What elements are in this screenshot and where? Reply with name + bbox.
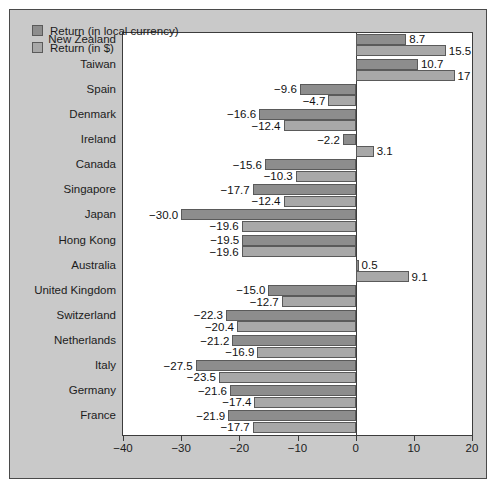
- chart-figure: New ZealandTaiwanSpainDenmarkIrelandCana…: [0, 0, 495, 492]
- x-axis-tick: [123, 436, 124, 441]
- bar-value-label: 3.1: [377, 146, 393, 157]
- chart-panel: New ZealandTaiwanSpainDenmarkIrelandCana…: [9, 9, 487, 479]
- bar-value-label: −23.5: [123, 372, 216, 383]
- bar-usd: [296, 171, 356, 182]
- bar-value-label: −15.6: [123, 160, 262, 171]
- bar-value-label: 9.1: [412, 272, 428, 283]
- bar-value-label: −22.3: [123, 310, 223, 321]
- bar-usd: [356, 45, 446, 56]
- bar-usd: [242, 221, 356, 232]
- x-axis-tick-label: −20: [230, 442, 250, 454]
- bar-value-label: −10.3: [123, 171, 293, 182]
- bar-value-label: −12.4: [123, 121, 281, 132]
- bar-value-label: 0.5: [362, 260, 378, 271]
- bar-value-label: −21.2: [123, 336, 229, 347]
- plot-area: 8.715.510.717−9.6−4.7−16.6−12.4−2.23.1−1…: [122, 32, 473, 436]
- bar-usd: [284, 196, 356, 207]
- bar-usd: [284, 120, 356, 131]
- x-axis-tick-label: 10: [407, 442, 420, 454]
- bar-value-label: −30.0: [123, 210, 178, 221]
- legend-item-local: Return (in local currency): [32, 22, 178, 39]
- x-axis-tick-label: −30: [171, 442, 191, 454]
- bar-value-label: −19.6: [123, 247, 239, 258]
- bar-usd: [242, 246, 356, 257]
- bar-value-label: −16.9: [123, 347, 254, 358]
- bar-local: [242, 235, 355, 246]
- legend-swatch-icon-usd: [32, 42, 43, 53]
- bar-usd: [257, 347, 355, 358]
- bar-usd: [356, 271, 409, 282]
- bar-local: [253, 184, 356, 195]
- y-axis-label: Italy: [95, 359, 116, 371]
- bar-usd: [356, 70, 455, 81]
- y-axis-label: Netherlands: [54, 334, 116, 346]
- y-axis-label: Hong Kong: [58, 234, 116, 246]
- y-axis-label: Canada: [76, 158, 116, 170]
- bar-value-label: −9.6: [123, 84, 297, 95]
- x-axis-tick: [414, 436, 415, 441]
- y-axis-label: Ireland: [81, 133, 116, 145]
- legend-item-usd: Return (in $): [32, 39, 178, 56]
- y-axis-label: Japan: [85, 208, 116, 220]
- x-axis-tick-label: 0: [352, 442, 358, 454]
- y-axis-label: Denmark: [69, 108, 116, 120]
- bar-local: [226, 310, 356, 321]
- y-axis-label: United Kingdom: [34, 284, 116, 296]
- bar-local: [230, 385, 356, 396]
- bar-value-label: −15.0: [123, 285, 265, 296]
- legend-label-usd: Return (in $): [50, 42, 114, 54]
- bar-value-label: −17.7: [123, 185, 250, 196]
- y-axis-label: France: [80, 409, 116, 421]
- bar-usd: [328, 95, 355, 106]
- x-axis-tick: [356, 436, 357, 441]
- bar-value-label: −2.2: [123, 135, 340, 146]
- y-axis-label: Taiwan: [80, 58, 116, 70]
- legend-label-local: Return (in local currency): [50, 25, 178, 37]
- bar-value-label: 17: [458, 71, 471, 82]
- y-axis-label: Australia: [71, 259, 116, 271]
- zero-axis-line: [356, 33, 357, 435]
- bar-value-label: −12.4: [123, 196, 281, 207]
- bar-value-label: 8.7: [409, 34, 425, 45]
- x-axis-tick: [298, 436, 299, 441]
- bar-usd: [254, 397, 355, 408]
- legend-swatch-icon-local: [32, 25, 43, 36]
- bar-local: [181, 209, 356, 220]
- bar-local: [356, 34, 407, 45]
- bar-local: [268, 285, 355, 296]
- x-axis-tick: [239, 436, 240, 441]
- x-axis-tick: [472, 436, 473, 441]
- bar-local: [259, 109, 356, 120]
- bar-local: [300, 84, 356, 95]
- y-axis-label: Singapore: [64, 183, 116, 195]
- bar-local: [232, 335, 355, 346]
- y-axis-label: Germany: [69, 384, 116, 396]
- chart-legend: Return (in local currency) Return (in $): [28, 20, 182, 58]
- bar-local: [228, 410, 355, 421]
- x-axis: −40−30−20−1001020: [122, 436, 473, 466]
- x-axis-tick-label: −40: [113, 442, 133, 454]
- bar-value-label: −17.4: [123, 397, 251, 408]
- bar-local: [265, 159, 356, 170]
- bar-value-label: 15.5: [449, 46, 471, 57]
- bar-value-label: −21.6: [123, 386, 227, 397]
- bar-value-label: −19.5: [123, 235, 239, 246]
- bar-usd: [253, 422, 356, 433]
- y-axis-label: Spain: [87, 83, 116, 95]
- bar-value-label: −4.7: [123, 96, 325, 107]
- bar-usd: [219, 372, 356, 383]
- bar-value-label: −12.7: [123, 297, 279, 308]
- x-axis-tick-label: 20: [466, 442, 479, 454]
- bar-local: [356, 59, 418, 70]
- bar-value-label: −27.5: [123, 361, 193, 372]
- bar-value-label: 10.7: [421, 59, 443, 70]
- bar-local: [343, 134, 356, 145]
- bar-usd: [282, 296, 356, 307]
- bar-local: [196, 360, 356, 371]
- bar-value-label: −19.6: [123, 221, 239, 232]
- bar-value-label: −21.9: [123, 411, 225, 422]
- x-axis-tick-label: −10: [288, 442, 308, 454]
- bar-local: [356, 260, 359, 271]
- bar-usd: [356, 146, 374, 157]
- y-axis-category-labels: New ZealandTaiwanSpainDenmarkIrelandCana…: [19, 32, 122, 436]
